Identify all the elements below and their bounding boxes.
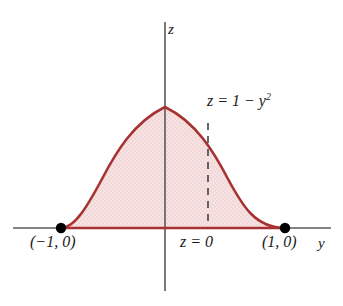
right-point-label: (1, 0): [262, 234, 297, 250]
curve-equation-exponent: 2: [266, 91, 271, 102]
plot-canvas: [0, 0, 343, 306]
shaded-region: [61, 107, 285, 228]
point-marker-right: [280, 223, 290, 233]
point-marker-left: [56, 223, 66, 233]
curve-equation-text: z = 1 − y: [207, 92, 266, 109]
curve-equation-label: z = 1 − y2: [207, 92, 271, 109]
z-axis-label: z: [168, 22, 174, 37]
y-axis-label: y: [318, 236, 325, 251]
left-point-label: (−1, 0): [30, 234, 75, 250]
parabola-region-figure: z y z = 1 − y2 (−1, 0) z = 0 (1, 0): [0, 0, 343, 306]
baseline-label: z = 0: [180, 234, 213, 250]
